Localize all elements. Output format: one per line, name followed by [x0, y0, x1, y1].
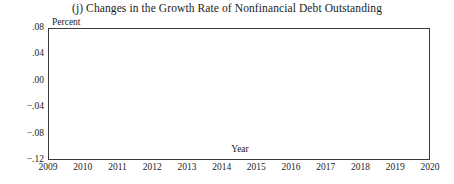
x-axis-tick-label: 2020	[421, 163, 440, 173]
x-axis-tick-label: 2016	[282, 163, 301, 173]
x-axis-tick-label: 2011	[108, 163, 127, 173]
x-axis-tick-label: 2018	[351, 163, 370, 173]
chart-figure: (j) Changes in the Growth Rate of Nonfin…	[0, 0, 454, 184]
x-axis-tick-label: 2017	[316, 163, 335, 173]
x-axis-labels: 2009201020112012201320142015201620172018…	[0, 0, 454, 184]
x-axis-tick-label: 2013	[177, 163, 196, 173]
x-axis-tick-label: 2009	[39, 163, 58, 173]
x-axis-tick-label: 2014	[212, 163, 231, 173]
x-axis-title: Year	[229, 144, 251, 154]
x-axis-tick-label: 2010	[73, 163, 92, 173]
x-axis-tick-label: 2012	[143, 163, 162, 173]
x-axis-tick-label: 2019	[386, 163, 405, 173]
x-axis-tick-label: 2015	[247, 163, 266, 173]
